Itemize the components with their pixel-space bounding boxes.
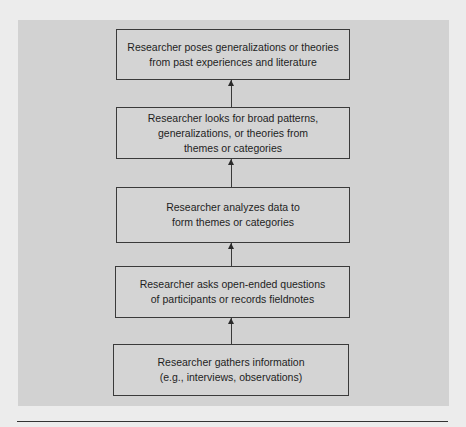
step-box-poses-theories: Researcher poses generalizations or theo… xyxy=(116,29,350,80)
arrow-up-icon xyxy=(228,243,234,249)
arrow-up-icon xyxy=(228,80,234,86)
step-box-analyzes-data: Researcher analyzes data to form themes … xyxy=(116,187,350,243)
step-label: Researcher analyzes data to form themes … xyxy=(166,200,300,230)
step-label: Researcher asks open-ended questions of … xyxy=(140,277,326,307)
step-label: Researcher looks for broad patterns, gen… xyxy=(148,111,318,156)
step-label: Researcher gathers information (e.g., in… xyxy=(157,355,304,385)
step-label: Researcher poses generalizations or theo… xyxy=(127,40,338,70)
step-box-open-ended-questions: Researcher asks open-ended questions of … xyxy=(115,266,350,318)
step-box-gathers-information: Researcher gathers information (e.g., in… xyxy=(113,344,349,396)
page-rule xyxy=(17,421,448,422)
arrow-up-icon xyxy=(228,318,234,324)
step-box-broad-patterns: Researcher looks for broad patterns, gen… xyxy=(116,107,350,159)
arrow-up-icon xyxy=(228,159,234,165)
